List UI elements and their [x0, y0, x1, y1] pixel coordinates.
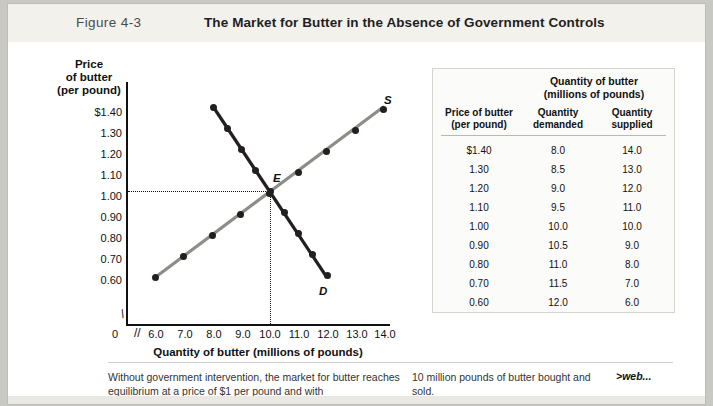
cell-demanded: 8.5 — [521, 164, 595, 175]
table-group-header: Quantity of butter (millions of pounds) — [519, 75, 669, 100]
cell-price: 0.70 — [437, 278, 521, 289]
table-row: 0.70 11.5 7.0 — [433, 278, 674, 294]
table-row: 1.20 9.0 12.0 — [433, 183, 674, 199]
cell-price: $1.40 — [437, 145, 521, 156]
cell-supplied: 8.0 — [595, 259, 669, 270]
cell-demanded: 10.0 — [521, 221, 595, 232]
col-price-line-1: Price of butter — [437, 107, 521, 119]
cell-price: 1.00 — [437, 221, 521, 232]
cell-supplied: 14.0 — [595, 145, 669, 156]
supply-point — [295, 169, 302, 176]
curves-svg — [8, 42, 428, 342]
demand-point — [267, 188, 274, 195]
demand-point — [281, 209, 288, 216]
demand-point — [210, 104, 217, 111]
table-row: 0.60 12.0 6.0 — [433, 297, 674, 313]
table-group-header-line-1: Quantity of butter — [519, 75, 669, 88]
demand-curve-label: D — [319, 285, 327, 297]
table-header-row: Price of butter (per pound) Quantity dem… — [433, 107, 674, 133]
cell-demanded: 9.0 — [521, 183, 595, 194]
cell-demanded: 8.0 — [521, 145, 595, 156]
supply-point — [237, 211, 244, 218]
chart-area: Price of butter (per pound) $1.40 1.30 1… — [8, 42, 705, 360]
cell-supplied: 10.0 — [595, 221, 669, 232]
caption-divider — [108, 362, 673, 363]
col-sup-line-1: Quantity — [595, 107, 669, 119]
cell-price: 0.80 — [437, 259, 521, 270]
figure-page: Figure 4-3 The Market for Butter in the … — [8, 4, 705, 404]
col-dem-line-2: demanded — [521, 119, 595, 131]
cell-price: 1.30 — [437, 164, 521, 175]
supply-curve-label: S — [384, 94, 392, 106]
table-col-header-price: Price of butter (per pound) — [437, 107, 521, 131]
table-row: $1.40 8.0 14.0 — [433, 145, 674, 161]
supply-point — [323, 148, 330, 155]
caption-left: Without government intervention, the mar… — [108, 370, 408, 398]
col-price-line-2: (per pound) — [437, 119, 521, 131]
supply-point — [380, 106, 387, 113]
table-row: 1.30 8.5 13.0 — [433, 164, 674, 180]
table-row: 1.10 9.5 11.0 — [433, 202, 674, 218]
cell-demanded: 11.5 — [521, 278, 595, 289]
equilibrium-label: E — [273, 172, 281, 184]
caption-right: 10 million pounds of butter bought and s… — [412, 370, 612, 398]
cell-supplied: 6.0 — [595, 297, 669, 308]
cell-supplied: 11.0 — [595, 202, 669, 213]
demand-point — [324, 272, 331, 279]
table-row: 1.00 10.0 10.0 — [433, 221, 674, 237]
cell-demanded: 9.5 — [521, 202, 595, 213]
cell-supplied: 9.0 — [595, 240, 669, 251]
cell-price: 1.20 — [437, 183, 521, 194]
supply-point — [209, 232, 216, 239]
figure-label: Figure 4-3 — [76, 15, 142, 30]
demand-point — [309, 251, 316, 258]
web-link[interactable]: >web... — [616, 370, 651, 382]
supply-point — [180, 253, 187, 260]
cell-supplied: 7.0 — [595, 278, 669, 289]
bottom-strip — [8, 396, 705, 404]
cell-price: 1.10 — [437, 202, 521, 213]
table-col-header-demanded: Quantity demanded — [521, 107, 595, 131]
table-row: 0.90 10.5 9.0 — [433, 240, 674, 256]
figure-title: The Market for Butter in the Absence of … — [204, 15, 605, 30]
cell-demanded: 10.5 — [521, 240, 595, 251]
table-header-rule — [441, 135, 666, 136]
figure-header: Figure 4-3 The Market for Butter in the … — [8, 4, 705, 43]
table-group-header-line-2: (millions of pounds) — [519, 88, 669, 101]
supply-point — [152, 274, 159, 281]
demand-point — [238, 146, 245, 153]
data-table: Quantity of butter (millions of pounds) … — [432, 68, 675, 313]
supply-point — [352, 127, 359, 134]
col-dem-line-1: Quantity — [521, 107, 595, 119]
cell-price: 0.60 — [437, 297, 521, 308]
table-row: 0.80 11.0 8.0 — [433, 259, 674, 275]
col-sup-line-2: supplied — [595, 119, 669, 131]
cell-price: 0.90 — [437, 240, 521, 251]
demand-point — [224, 125, 231, 132]
demand-point — [295, 230, 302, 237]
cell-supplied: 13.0 — [595, 164, 669, 175]
cell-demanded: 11.0 — [521, 259, 595, 270]
table-col-header-supplied: Quantity supplied — [595, 107, 669, 131]
x-axis-title: Quantity of butter (millions of pounds) — [128, 346, 388, 359]
cell-demanded: 12.0 — [521, 297, 595, 308]
cell-supplied: 12.0 — [595, 183, 669, 194]
demand-point — [252, 167, 259, 174]
